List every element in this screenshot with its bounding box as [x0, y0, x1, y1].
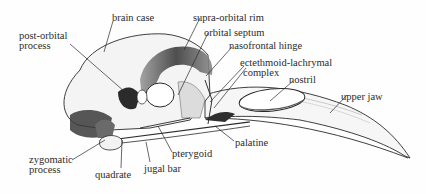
- bird-skull-diagram: brain case post-orbital process supra-or…: [0, 0, 426, 194]
- label-orbital-septum: orbital septum: [204, 28, 264, 38]
- label-post-orbital-process-line2: process: [19, 41, 51, 51]
- label-nasofrontal-hinge: nasofrontal hinge: [229, 41, 302, 51]
- label-quadrate: quadrate: [95, 170, 131, 180]
- label-upper-jaw: upper jaw: [341, 92, 383, 102]
- label-jugal-bar: jugal bar: [144, 164, 181, 174]
- orbit-shape: [146, 83, 174, 107]
- label-brain-case: brain case: [112, 13, 154, 23]
- label-zygomatic-process-line2: process: [29, 165, 61, 175]
- label-nostril: nostril: [289, 75, 316, 85]
- label-ectethmoid-lachrymal-line2: complex: [243, 68, 279, 78]
- label-supra-orbital-rim: supra-orbital rim: [193, 13, 264, 23]
- label-palatine: palatine: [235, 138, 268, 148]
- label-pterygoid: pterygoid: [172, 149, 212, 159]
